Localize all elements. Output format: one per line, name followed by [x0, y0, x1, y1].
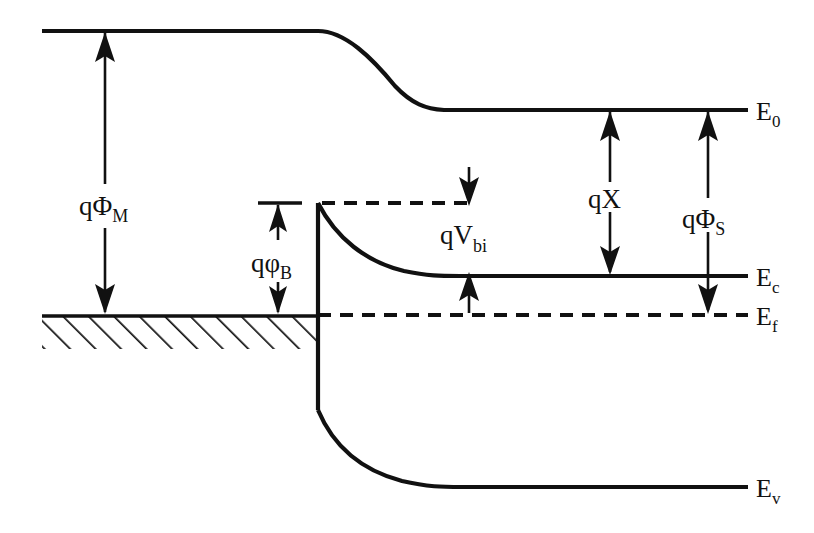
ef-base: E	[756, 302, 772, 331]
q-phi-s-sub: S	[715, 219, 725, 239]
level-label-ev: Ev	[756, 474, 781, 508]
q-phi-s-base: qΦ	[682, 204, 715, 234]
metal-hatch-fill	[42, 315, 318, 349]
q-phi-m-sub: M	[112, 206, 128, 226]
annotation-q-v-bi: qVbi	[440, 167, 487, 313]
annotation-q-phi-b: qφB	[251, 204, 292, 314]
annotation-q-x: qX	[588, 111, 622, 275]
ev-sub: v	[772, 489, 781, 508]
level-label-ec: Ec	[756, 263, 780, 297]
band-diagram-canvas: qΦM qφB qVbi	[0, 0, 814, 533]
band-diagram-svg: qΦM qφB qVbi	[0, 0, 814, 533]
level-label-e0: E0	[756, 97, 780, 131]
q-x-base: qX	[588, 184, 622, 214]
q-phi-b-base: qφ	[251, 248, 280, 278]
level-label-ef: Ef	[756, 302, 778, 336]
q-phi-s-label: qΦS	[682, 204, 725, 239]
e0-sub: 0	[772, 112, 781, 131]
metal-region	[42, 315, 318, 349]
ev-base: E	[756, 474, 772, 503]
q-phi-b-label: qφB	[251, 248, 292, 283]
q-v-bi-sub: bi	[473, 236, 487, 256]
vacuum-level-curve	[42, 31, 748, 110]
e0-base: E	[756, 97, 772, 126]
q-x-label: qX	[588, 184, 622, 214]
q-phi-m-base: qΦ	[79, 191, 112, 221]
ec-sub: c	[772, 278, 780, 297]
q-v-bi-label: qVbi	[440, 220, 487, 256]
ef-sub: f	[772, 317, 778, 336]
valence-band-curve	[318, 410, 748, 487]
annotation-q-phi-s: qΦS	[682, 111, 725, 314]
ec-base: E	[756, 263, 772, 292]
q-v-bi-base: qV	[440, 220, 474, 250]
q-phi-m-label: qΦM	[79, 191, 128, 226]
annotation-q-phi-m: qΦM	[79, 32, 128, 314]
q-phi-b-sub: B	[280, 263, 292, 283]
